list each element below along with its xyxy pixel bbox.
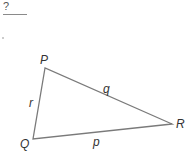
vertex-p-label: P [40,53,48,67]
side-p-label: p [93,135,100,149]
vertex-r-label: R [176,117,185,131]
side-q-label: q [103,82,110,96]
triangle-pqr [33,68,172,139]
vertex-q-label: Q [20,137,29,151]
side-r-label: r [29,96,33,110]
